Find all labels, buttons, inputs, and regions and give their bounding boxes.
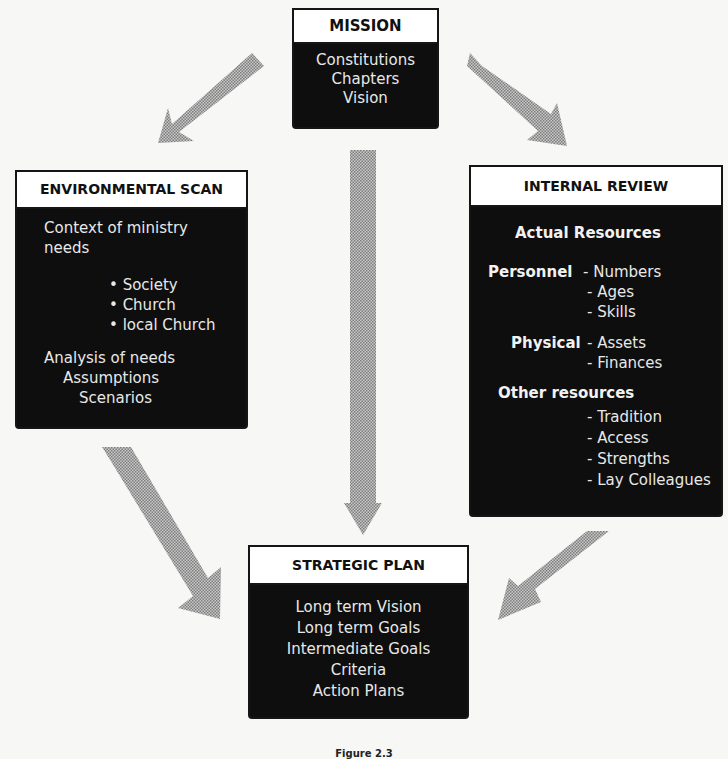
analysis-item: Analysis of needs [44,348,175,368]
arrow-mission-to-internal [467,53,567,146]
internal-review-box: INTERNAL REVIEW Actual Resources Personn… [469,165,723,517]
plan-item: Long term Vision [250,597,467,618]
bullet-icon: • [109,276,118,294]
strategic-plan-title: STRATEGIC PLAN [250,547,467,585]
arrow-internal-to-plan [498,531,609,620]
internal-review-body: Actual Resources Personnel - Numbers - A… [471,207,721,513]
strategic-plan-box: STRATEGIC PLAN Long term Vision Long ter… [248,545,469,719]
resource-item: - Numbers [583,262,661,282]
resource-item: - Finances [587,353,662,373]
environmental-scan-box: ENVIRONMENTAL SCAN Context of ministry n… [15,170,248,429]
arrow-mission-to-env [158,53,264,143]
resource-item: - Assets [587,333,646,353]
resources-heading: Actual Resources [515,223,661,243]
mission-box: MISSION Constitutions Chapters Vision [292,8,439,129]
bullet-item: • local Church [109,315,215,335]
bullet-icon: • [109,316,118,334]
arrow-env-to-plan [102,447,221,619]
mission-body: Constitutions Chapters Vision [294,44,437,108]
resource-item: - Skills [587,302,636,322]
group-label-personnel: Personnel [488,262,572,282]
resource-item: - Strengths [587,449,670,469]
arrow-mission-to-plan [344,150,382,535]
plan-item: Criteria [250,660,467,681]
group-label-physical: Physical [511,333,581,353]
figure-caption: Figure 2.3 [0,748,728,759]
resource-item: - Ages [587,282,634,302]
analysis-item: Assumptions [63,368,159,388]
strategic-plan-body: Long term Vision Long term Goals Interme… [250,585,467,702]
mission-item: Vision [294,89,437,108]
context-line: needs [44,238,89,258]
plan-item: Long term Goals [250,618,467,639]
bullet-icon: • [109,296,118,314]
resource-item: - Tradition [587,407,662,427]
bullet-item: • Society [109,275,178,295]
resource-item: - Lay Colleagues [587,470,711,490]
mission-item: Chapters [294,70,437,89]
internal-review-title: INTERNAL REVIEW [471,167,721,207]
plan-item: Intermediate Goals [250,639,467,660]
bullet-item: • Church [109,295,176,315]
analysis-item: Scenarios [79,388,152,408]
plan-item: Action Plans [250,681,467,702]
mission-title: MISSION [294,10,437,44]
mission-item: Constitutions [294,51,437,70]
resource-item: - Access [587,428,649,448]
group-label-other: Other resources [498,383,634,403]
environmental-scan-body: Context of ministry needs • Society • Ch… [17,209,246,428]
environmental-scan-title: ENVIRONMENTAL SCAN [17,172,246,209]
context-line: Context of ministry [44,218,188,238]
